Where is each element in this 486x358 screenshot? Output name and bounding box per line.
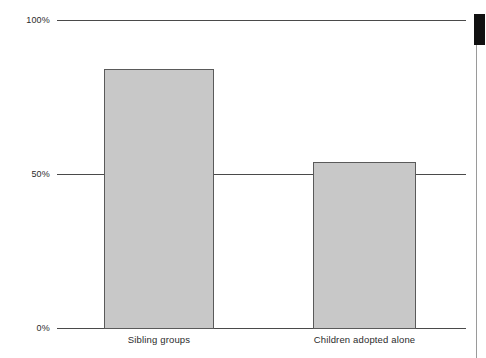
bar-chart-figure: 100% 50% 0% Sibling groups Children adop… bbox=[0, 0, 486, 358]
black-edge-marker bbox=[474, 14, 485, 45]
y-axis-tick-label-0: 0% bbox=[4, 323, 50, 333]
gridline-100 bbox=[57, 20, 466, 21]
plot-area: 100% 50% 0% Sibling groups Children adop… bbox=[0, 0, 486, 358]
bar-sibling-groups bbox=[104, 69, 214, 329]
page-edge-rule bbox=[476, 16, 477, 358]
x-axis-label-children-adopted-alone: Children adopted alone bbox=[299, 334, 430, 345]
bar-children-adopted-alone bbox=[313, 162, 416, 329]
y-axis-tick-label-100: 100% bbox=[4, 15, 50, 25]
y-axis-tick-label-50: 50% bbox=[4, 169, 50, 179]
x-axis-label-sibling-groups: Sibling groups bbox=[104, 334, 214, 345]
